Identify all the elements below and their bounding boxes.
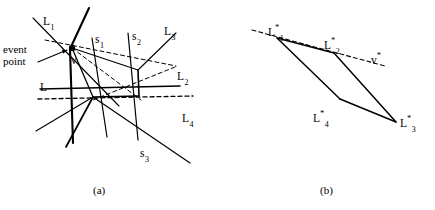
line-b-bottom <box>340 99 396 122</box>
label-L3: L3 <box>164 25 175 41</box>
label-v-star: v* <box>371 52 381 66</box>
line-quad-right <box>138 70 139 96</box>
panel-a-caption: (a) <box>93 184 105 196</box>
label-L4: L4 <box>182 112 193 128</box>
panel-b-caption: (b) <box>320 184 333 196</box>
label-L1-star: L*1 <box>268 24 283 42</box>
label-s1: s1 <box>95 33 103 49</box>
label-L2: L2 <box>177 70 188 86</box>
label-event-point: event point <box>3 44 27 68</box>
line-steep-thick <box>70 8 89 49</box>
label-L2-star: L*2 <box>324 37 339 55</box>
figure-canvas <box>0 0 435 210</box>
line-b-right <box>334 53 396 122</box>
label-L4-star: L*4 <box>313 110 328 128</box>
line-L-horizontal <box>40 86 180 89</box>
label-L1: L1 <box>43 15 54 31</box>
label-L3-star: L*3 <box>400 115 415 133</box>
label-vertex-v: v <box>71 54 77 66</box>
line-L2-dashed <box>45 40 176 66</box>
figure-root: L1s1s2L3L2LL4s3vevent point(a)L*1L*2v*L*… <box>0 0 435 210</box>
label-s2: s2 <box>132 30 140 46</box>
label-s3: s3 <box>140 147 148 163</box>
label-L: L <box>40 81 47 93</box>
event-point-dot <box>69 45 75 51</box>
line-L3-ext <box>72 48 138 70</box>
